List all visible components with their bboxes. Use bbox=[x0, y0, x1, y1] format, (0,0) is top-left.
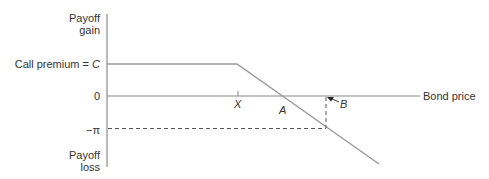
strike-x-label: X bbox=[234, 98, 241, 110]
bond-price-label: Bond price bbox=[423, 90, 476, 102]
zero-label: 0 bbox=[60, 90, 100, 102]
call-premium-label: Call premium = C bbox=[0, 58, 100, 70]
short-call-payoff-line bbox=[107, 64, 379, 164]
payoff-loss-label-line1: Payoff bbox=[40, 149, 100, 161]
payoff-loss-label-line2: loss bbox=[40, 161, 100, 173]
payoff-loss-label: Payoff loss bbox=[40, 149, 100, 173]
payoff-gain-label: Payoff gain bbox=[40, 12, 100, 36]
neg-pi-label: −π bbox=[60, 124, 100, 136]
point-a-label: A bbox=[279, 104, 286, 116]
call-premium-symbol: C bbox=[92, 58, 100, 70]
payoff-gain-label-line1: Payoff bbox=[40, 12, 100, 24]
payoff-gain-label-line2: gain bbox=[40, 24, 100, 36]
point-b-label: B bbox=[340, 98, 347, 110]
call-premium-prefix: Call premium = bbox=[15, 58, 92, 70]
